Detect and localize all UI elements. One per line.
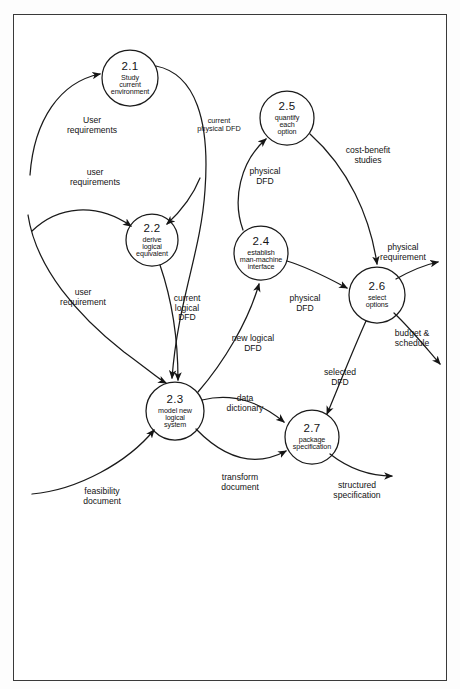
flow-transform-document	[196, 429, 286, 459]
flow-feasibility-document	[32, 430, 154, 494]
flow-new-logical-dfd	[198, 284, 259, 392]
process-circle-2-6	[349, 267, 405, 323]
process-circle-2-3	[146, 382, 204, 440]
flow-user-requirements-upper	[30, 74, 100, 175]
process-circle-2-1	[102, 50, 158, 106]
flow-user-requirement	[28, 215, 166, 383]
flow-budget-schedule	[394, 313, 440, 364]
flow-physical-dfd-to-2-5	[238, 139, 266, 230]
flow-physical-dfd-into-2-2	[167, 178, 200, 224]
diagram-canvas	[0, 0, 460, 689]
flow-cost-benefit-studies	[310, 134, 377, 264]
process-circle-2-7	[285, 410, 339, 464]
process-circle-2-5	[260, 91, 314, 145]
flow-data-dictionary	[202, 397, 284, 422]
process-circle-2-4	[234, 226, 288, 280]
diagram-page: 2.1Studycurrentenvironment 2.2derivelogi…	[0, 0, 460, 689]
flow-current-physical-dfd	[156, 66, 206, 378]
flow-structured-specification	[330, 454, 392, 476]
flow-selected-dfd	[327, 321, 366, 414]
flow-physical-dfd-to-2-6	[287, 261, 347, 288]
flow-current-logical-dfd	[160, 265, 178, 380]
flow-user-requirements-lower	[32, 210, 131, 231]
flow-physical-requirement	[396, 262, 438, 279]
